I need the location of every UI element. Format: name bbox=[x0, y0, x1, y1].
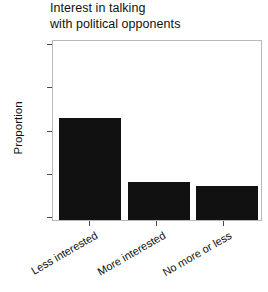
bar-no-more-or-less bbox=[196, 186, 258, 220]
plot-panel bbox=[52, 40, 262, 221]
x-tick-label-no-more-or-less: No more or less bbox=[161, 229, 234, 278]
chart-title: Interest in talkingwith political oppone… bbox=[50, 1, 260, 32]
chart-title-line-2: with political opponents bbox=[50, 17, 180, 31]
x-tick-mark-1 bbox=[156, 221, 157, 226]
y-axis-label: Proportion bbox=[12, 78, 24, 178]
x-tick-label-more-interested: More interested bbox=[95, 229, 167, 278]
bar-less-interested bbox=[59, 118, 121, 220]
chart-title-line-1: Interest in talking bbox=[50, 1, 145, 15]
x-tick-mark-2 bbox=[223, 221, 224, 226]
bar-chart-figure: Interest in talkingwith political oppone… bbox=[0, 0, 268, 292]
x-tick-label-less-interested: Less interested bbox=[29, 229, 100, 277]
x-tick-mark-0 bbox=[89, 221, 90, 226]
bar-more-interested bbox=[128, 182, 190, 220]
